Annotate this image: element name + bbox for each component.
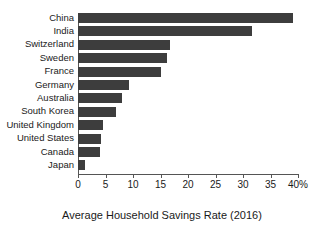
- plot-area: [78, 13, 298, 174]
- x-tick-label: 30: [237, 179, 248, 191]
- bar-row: [78, 93, 298, 103]
- x-tick-mark: [188, 174, 189, 178]
- x-tick-label: 0: [75, 179, 81, 191]
- category-label: China: [0, 13, 74, 23]
- bar-chart-figure: ChinaIndiaSwitzerlandSwedenFranceGermany…: [0, 0, 324, 238]
- bar: [78, 67, 161, 77]
- bar-row: [78, 67, 298, 77]
- x-tick-mark: [298, 174, 299, 178]
- x-axis-tick-labels: 0510152025303540%: [0, 179, 324, 193]
- category-label: United States: [0, 133, 74, 143]
- bar-row: [78, 26, 298, 36]
- bar-row: [78, 147, 298, 157]
- x-tick-mark: [216, 174, 217, 178]
- bar-row: [78, 107, 298, 117]
- x-axis-title: Average Household Savings Rate (2016): [0, 208, 324, 222]
- x-tick-mark: [78, 174, 79, 178]
- x-tick-label: 5: [103, 179, 109, 191]
- category-label: South Korea: [0, 106, 74, 116]
- category-label: United Kingdom: [0, 120, 74, 130]
- x-tick-mark: [161, 174, 162, 178]
- x-tick-label: 40%: [288, 179, 308, 191]
- bar-row: [78, 160, 298, 170]
- bar: [78, 80, 129, 90]
- bar: [78, 147, 100, 157]
- x-tick-mark: [243, 174, 244, 178]
- bar: [78, 107, 116, 117]
- bar: [78, 160, 85, 170]
- category-label: Germany: [0, 80, 74, 90]
- category-label: India: [0, 26, 74, 36]
- category-label: Japan: [0, 160, 74, 170]
- bar-row: [78, 120, 298, 130]
- x-tick-mark: [271, 174, 272, 178]
- bar: [78, 53, 167, 63]
- category-label: Switzerland: [0, 39, 74, 49]
- x-tick-label: 20: [182, 179, 193, 191]
- bar-row: [78, 53, 298, 63]
- bar-row: [78, 40, 298, 50]
- x-tick-label: 15: [155, 179, 166, 191]
- bar: [78, 40, 170, 50]
- bar: [78, 13, 293, 23]
- bar-row: [78, 134, 298, 144]
- x-tick-mark: [133, 174, 134, 178]
- bar-row: [78, 80, 298, 90]
- bar: [78, 26, 252, 36]
- x-tick-mark: [106, 174, 107, 178]
- bar: [78, 120, 103, 130]
- bar: [78, 134, 101, 144]
- x-tick-label: 35: [265, 179, 276, 191]
- category-label: France: [0, 66, 74, 76]
- category-label: Sweden: [0, 53, 74, 63]
- x-tick-label: 10: [127, 179, 138, 191]
- x-tick-label: 25: [210, 179, 221, 191]
- y-axis-category-labels: ChinaIndiaSwitzerlandSwedenFranceGermany…: [0, 13, 74, 174]
- category-label: Australia: [0, 93, 74, 103]
- bar-row: [78, 13, 298, 23]
- category-label: Canada: [0, 147, 74, 157]
- bar: [78, 93, 122, 103]
